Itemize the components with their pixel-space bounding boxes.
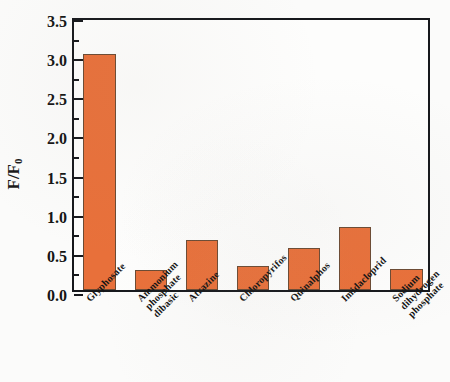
plot-area: 0.00.51.01.52.02.53.03.5 [72, 18, 430, 292]
y-tick-minor [74, 235, 79, 237]
y-tick-label: 0.0 [47, 288, 67, 304]
y-tick-label: 2.0 [47, 131, 67, 147]
y-tick-minor [74, 157, 79, 159]
y-tick-major: 3.0 [74, 59, 83, 61]
y-tick-minor [74, 79, 79, 81]
y-tick-minor [74, 118, 79, 120]
y-tick-label: 3.5 [47, 14, 67, 30]
y-tick-major: 3.5 [74, 20, 83, 22]
y-tick-label: 2.5 [47, 92, 67, 108]
y-tick-minor [74, 40, 79, 42]
y-axis-title: F/F0 [0, 128, 26, 220]
y-tick-label: 3.0 [47, 53, 67, 69]
y-axis-title-main: F/F [3, 164, 22, 190]
y-tick-label: 0.5 [47, 249, 67, 265]
y-tick-major: 1.5 [74, 177, 83, 179]
y-tick-major: 0.5 [74, 255, 83, 257]
y-tick-label: 1.0 [47, 210, 67, 226]
y-tick-minor [74, 196, 79, 198]
y-axis-title-subscript: 0 [11, 159, 23, 165]
y-tick-major: 2.5 [74, 98, 83, 100]
y-tick-label: 1.5 [47, 171, 67, 187]
y-tick-major: 1.0 [74, 216, 83, 218]
bar [83, 54, 115, 290]
y-tick-major: 0.0 [74, 294, 83, 296]
y-tick-major: 2.0 [74, 137, 83, 139]
bar-chart-figure: F/F0 0.00.51.01.52.02.53.03.5 Glyphosate… [0, 0, 450, 382]
y-tick-minor [74, 274, 79, 276]
